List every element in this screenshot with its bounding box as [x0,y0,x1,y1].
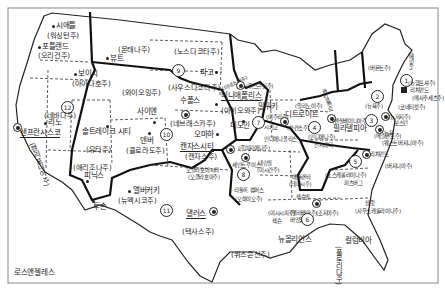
state-vermont: (버몬트주) [368,65,390,71]
city-new-orleans: 뉴올리언스 [278,236,312,244]
minneapolis-reserve-bank-icon [236,81,245,90]
boston-reserve-bank-icon [401,87,407,93]
state-idaho: (아이다호주) [72,80,111,88]
state-missouri: (루이지애나주) [238,145,270,151]
state-connecticut: (코네티컷주) [398,104,425,110]
city-omaha: 오마하 [194,131,214,139]
city-boise: 보이시 [78,70,98,78]
city-charlotte: 피츠버그 [344,180,363,186]
state-oklahoma: (오클라호마주) [188,174,220,180]
city-milwaukee: 밀워키 [258,103,278,111]
city-butte: 뷰트 [110,55,123,63]
city-pittsburgh: 필라델피아 [333,125,367,133]
state-south-carolina: (사우스캐롤라이나주) [355,208,401,214]
district-2-marker: 2 [371,90,384,103]
state-utah: (유타주) [86,146,111,154]
boise-dot [74,73,77,76]
state-kentucky: (미시간주) [257,167,279,173]
state-south-dakota: (사우스다코타주) [168,84,220,92]
city-portland: 포틀랜드 [42,43,69,51]
city-indianapolis: 인디애나폴리스 [264,136,297,142]
district-6-marker: 6 [301,213,314,226]
city-fargo: 파고 [200,69,213,77]
state-north-dakota: (노스다코타주) [174,48,219,56]
state-nebraska: (네브래스카주) [170,120,215,128]
district-9-marker: 9 [172,64,185,77]
city-seattle: 시애틀 [56,22,76,30]
atlanta-reserve-bank-icon [312,199,321,208]
city-columbia: 샬럿 [365,200,374,206]
st-louis-reserve-bank-icon [241,153,250,162]
city-kansas-city: 캔자스시티 [180,143,214,152]
state-arkansas: (오하이오주) [235,196,262,202]
nebraska-reserve-branch-icon [181,110,190,119]
reno-dot [44,122,47,125]
city-nashville: 애틀랜타 [292,174,311,180]
philadelphia-reserve-bank-icon [375,125,384,134]
state-texas: (텍사스주) [182,228,214,236]
state-virginia: (버지니아주) [385,163,412,169]
city-des-moines: 디모인 [230,122,250,130]
district-11-marker: 11 [160,204,173,217]
state-wyoming: (와이오밍주) [122,89,161,97]
state-maine: (메인주) [408,52,414,70]
cheyenne-dot [153,121,156,124]
state-wisconsin: (위스콘신주) [246,83,273,89]
state-indiana: (아칸소주) [287,125,309,131]
state-new-hampshire: (뉴햄프셔주) [408,80,435,86]
city-san-francisco: 샌프란시스코 [20,129,60,138]
state-iowa: (아이오와주) [221,107,260,115]
city-salt-lake-city: 솔트레이크 시티 [82,128,131,136]
city-denver: 덴버 [140,137,153,145]
state-colorado: (콜로라도주) [126,147,165,155]
city-boston: 리치먼드 [410,87,429,93]
state-louisiana: (위스콘신주) [231,251,270,259]
fargo-dot [215,71,218,74]
city-oklahoma-city: 오클라호마시티 [186,167,219,173]
state-massachusetts: (매사추세츠주) [412,95,444,101]
denver-dot [148,132,151,135]
city-reno: 리노 [48,119,61,127]
city-richmond: 리치먼드 [370,151,389,157]
sioux-falls-dot [215,103,218,106]
state-kansas: (캔자스주) [185,153,217,161]
seattle-dot [52,25,55,28]
phoenix-dot [86,180,89,183]
albuquerque-dot [128,190,131,193]
state-montana: (몬태나주) [118,46,150,54]
city-los-angeles: 로스앤젤레스 [14,269,54,277]
state-michigan: (일리노이주) [295,103,322,109]
city-atlanta: 잭슨빌 [296,194,310,200]
state-north-carolina: (노스캐롤라이나주) [325,172,366,178]
state-west-virginia: (웨스트버지니아주) [382,140,423,146]
city-new-york-city: 보스턴 [394,120,408,126]
city-st-louis: 세인트루이스 [232,162,260,168]
state-georgia: (조지아주) [316,210,338,216]
city-detroit: 디트로이트 [285,111,319,119]
city-little-rock: 리틀록 캠퍼스 [234,187,264,193]
city-albuquerque: 앨버커키 [133,187,160,195]
city-sioux-falls: 수폴스 [180,97,200,105]
state-washington: (워싱턴주) [47,32,79,40]
district-5-marker: 5 [349,155,362,168]
city-tucson: 투손 [93,203,106,211]
city-cincinnati: 신시내티 [314,142,333,148]
city-jacksonville: 컬럼비아 [345,237,372,245]
city-minneapolis: 미니애폴리스 [221,92,261,101]
state-oregon: (오리건주) [38,52,70,60]
state-tennessee: (테네시주) [289,181,311,187]
federal-reserve-districts-map: 시애틀 (워싱턴주) 포틀랜드 (오리건주) 보이시 (아이다호주) (몬태나주… [0,0,445,291]
district-4-marker: 4 [308,121,321,134]
state-ohio: (인디애나주) [308,134,335,140]
city-cheyenne: 사이엔 [137,108,157,116]
city-louisville: 내슈빌 [258,160,272,166]
kansas-city-reserve-bank-icon [226,145,235,154]
dallas-reserve-bank-icon [209,207,218,216]
state-florida: (플로리다주) [334,246,342,285]
city-jackson: 잭슨 [272,218,281,224]
city-dallas: 댈러스 [186,210,206,219]
city-philadelphia: 뉴욕 [384,130,393,136]
city-phoenix: 피닉스 [84,172,104,180]
district-10-marker: 10 [160,128,173,141]
city-chicago: 시카고 [264,124,278,130]
